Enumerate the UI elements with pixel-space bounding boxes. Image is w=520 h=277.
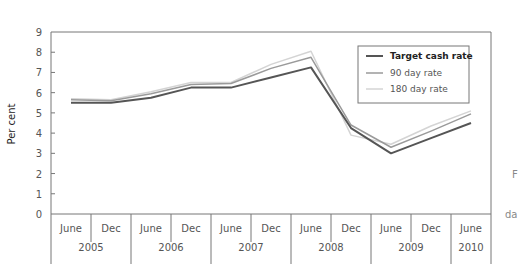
x-year-label: 2010 <box>458 242 483 253</box>
y-tick-label: 1 <box>36 189 42 200</box>
y-tick-label: 2 <box>36 169 42 180</box>
y-tick-label: 0 <box>36 209 42 220</box>
x-year-label: 2005 <box>78 242 103 253</box>
x-month-label: Dec <box>341 223 360 234</box>
cut-off-text-2: da <box>505 209 517 220</box>
x-year-label: 2008 <box>318 242 343 253</box>
legend-label-target: Target cash rate <box>390 51 473 61</box>
x-month-label: June <box>59 223 82 234</box>
x-month-label: June <box>139 223 162 234</box>
x-month-label: June <box>459 223 482 234</box>
y-tick-label: 8 <box>36 47 42 58</box>
x-month-label: June <box>219 223 242 234</box>
x-month-label: Dec <box>421 223 440 234</box>
cut-off-text-1: F <box>512 169 518 180</box>
y-tick-label: 7 <box>36 67 42 78</box>
y-axis-label: Per cent <box>6 103 17 144</box>
x-month-label: Dec <box>261 223 280 234</box>
legend: Target cash rate 90 day rate 180 day rat… <box>358 46 473 103</box>
x-categories: JuneDecJuneDecJuneDecJuneDecJuneDecJune2… <box>59 214 484 264</box>
x-month-label: Dec <box>181 223 200 234</box>
x-year-label: 2007 <box>238 242 263 253</box>
y-ticks: 0123456789 <box>36 27 55 220</box>
x-month-label: June <box>379 223 402 234</box>
y-tick-label: 5 <box>36 108 42 119</box>
x-month-label: Dec <box>101 223 120 234</box>
legend-label-90day: 90 day rate <box>390 68 442 78</box>
x-month-label: June <box>299 223 322 234</box>
y-tick-label: 9 <box>36 27 42 38</box>
legend-label-180day: 180 day rate <box>390 84 448 94</box>
chart: 0123456789 JuneDecJuneDecJuneDecJuneDecJ… <box>0 0 520 277</box>
x-year-label: 2006 <box>158 242 183 253</box>
y-tick-label: 4 <box>36 128 42 139</box>
x-year-label: 2009 <box>398 242 423 253</box>
y-tick-label: 6 <box>36 88 42 99</box>
y-tick-label: 3 <box>36 148 42 159</box>
